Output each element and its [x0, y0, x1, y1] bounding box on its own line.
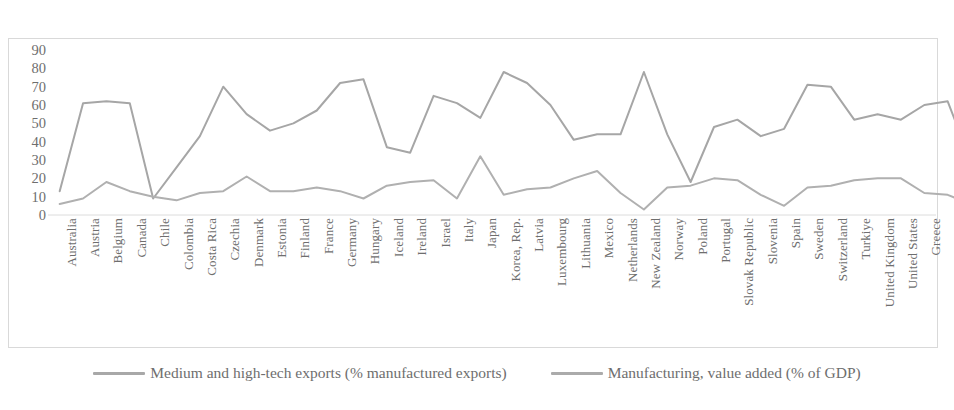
- x-axis-tick-label: Greece: [929, 218, 942, 255]
- x-axis-tick-label: Netherlands: [626, 218, 639, 282]
- plot-area: [48, 50, 936, 215]
- x-axis-tick-label: Australia: [65, 218, 78, 267]
- x-axis-tick-label: Poland: [696, 218, 709, 255]
- chart-lines-svg: [48, 50, 936, 215]
- legend-label: Manufacturing, value added (% of GDP): [608, 365, 861, 381]
- y-axis-tick-label: 50: [32, 116, 47, 130]
- x-axis-tick-label: Israel: [439, 218, 452, 247]
- x-axis-tick-label: Colombia: [182, 218, 195, 270]
- x-axis-tick-label: France: [322, 218, 335, 254]
- x-axis-tick-label: Canada: [135, 218, 148, 258]
- y-axis-tick-label: 40: [32, 135, 47, 149]
- x-axis-tick-label: Latvia: [532, 218, 545, 252]
- x-axis-tick-label: Spain: [789, 218, 802, 248]
- x-axis-tick-label: Switzerland: [836, 218, 849, 281]
- x-axis-tick-labels: AustraliaAustriaBelgiumCanadaChileColomb…: [48, 218, 936, 338]
- y-axis-tick-label: 80: [32, 61, 47, 75]
- x-axis-tick-label: New Zealand: [649, 218, 662, 289]
- legend-entry-2[interactable]: Manufacturing, value added (% of GDP): [551, 365, 861, 381]
- x-axis-tick-label: Costa Rica: [205, 218, 218, 276]
- x-axis-tick-label: Italy: [462, 218, 475, 242]
- legend-color-swatch: [551, 372, 603, 375]
- legend-color-swatch: [93, 372, 145, 375]
- y-axis-tick-label: 70: [32, 80, 47, 94]
- y-axis-tick-label: 20: [32, 171, 47, 185]
- x-axis-tick-label: United States: [906, 218, 919, 289]
- series-line-1: [60, 72, 954, 199]
- y-axis-tick-label: 60: [32, 98, 47, 112]
- x-axis-tick-label: Czechia: [228, 218, 241, 261]
- legend-label: Medium and high-tech exports (% manufact…: [150, 365, 506, 381]
- y-axis-tick-label: 0: [39, 208, 46, 222]
- x-axis-tick-label: Slovak Republic: [742, 218, 755, 306]
- x-axis-tick-label: Iceland: [392, 218, 405, 257]
- series-line-2: [60, 156, 954, 209]
- x-axis-tick-label: Belgium: [111, 218, 124, 263]
- y-axis-tick-label: 30: [32, 153, 47, 167]
- chart-legend: Medium and high-tech exports (% manufact…: [0, 356, 954, 390]
- chart-container: 9080706050403020100 AustraliaAustriaBelg…: [0, 0, 954, 410]
- x-axis-tick-label: Korea, Rep.: [509, 218, 522, 282]
- x-axis-tick-label: Lithuania: [579, 218, 592, 269]
- x-axis-tick-label: Mexico: [602, 218, 615, 258]
- x-axis-tick-label: Turkiye: [859, 218, 872, 259]
- y-axis-tick-label: 90: [32, 43, 47, 57]
- x-axis-tick-label: Sweden: [812, 218, 825, 260]
- x-axis-tick-label: Ireland: [415, 218, 428, 256]
- x-axis-tick-label: Luxembourg: [555, 218, 568, 286]
- x-axis-tick-label: Austria: [88, 218, 101, 257]
- x-axis-tick-label: Portugal: [719, 218, 732, 263]
- x-axis-tick-label: Slovenia: [766, 218, 779, 264]
- x-axis-tick-label: Hungary: [368, 218, 381, 264]
- x-axis-tick-label: Chile: [158, 218, 171, 247]
- x-axis-tick-label: United Kingdom: [883, 218, 896, 307]
- x-axis-tick-label: Estonia: [275, 218, 288, 258]
- y-axis-tick-labels: 9080706050403020100: [10, 44, 46, 222]
- x-axis-tick-label: Denmark: [252, 218, 265, 267]
- x-axis-tick-label: Finland: [298, 218, 311, 258]
- x-axis-tick-label: Norway: [672, 218, 685, 260]
- x-axis-tick-label: Japan: [485, 218, 498, 248]
- series-lines-group: [60, 72, 954, 210]
- legend-entry-1[interactable]: Medium and high-tech exports (% manufact…: [93, 365, 506, 381]
- x-axis-tick-label: Germany: [345, 218, 358, 267]
- y-axis-tick-label: 10: [32, 190, 47, 204]
